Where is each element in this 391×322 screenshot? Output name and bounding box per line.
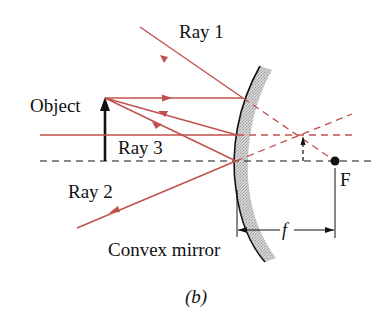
mirror-label: Convex mirror	[108, 239, 221, 260]
ray2-label: Ray 2	[68, 181, 113, 202]
arrow-icon	[160, 55, 168, 63]
convex-mirror-ray-diagram: Ray 1 Object Ray 3 Ray 2 F f Convex mirr…	[0, 0, 391, 322]
focal-point-marker	[331, 157, 340, 166]
arrow-icon	[162, 95, 172, 102]
focal-point-label: F	[340, 169, 351, 190]
object-label: Object	[30, 95, 81, 116]
arrow-icon	[109, 206, 120, 213]
ray-arrowheads	[109, 55, 172, 213]
arrow-icon	[152, 122, 162, 129]
ray1-label: Ray 1	[179, 21, 224, 42]
ray3-label: Ray 3	[118, 137, 163, 158]
figure-caption: (b)	[185, 286, 207, 308]
object-arrow-icon	[100, 97, 110, 161]
focal-length-label: f	[282, 220, 290, 240]
